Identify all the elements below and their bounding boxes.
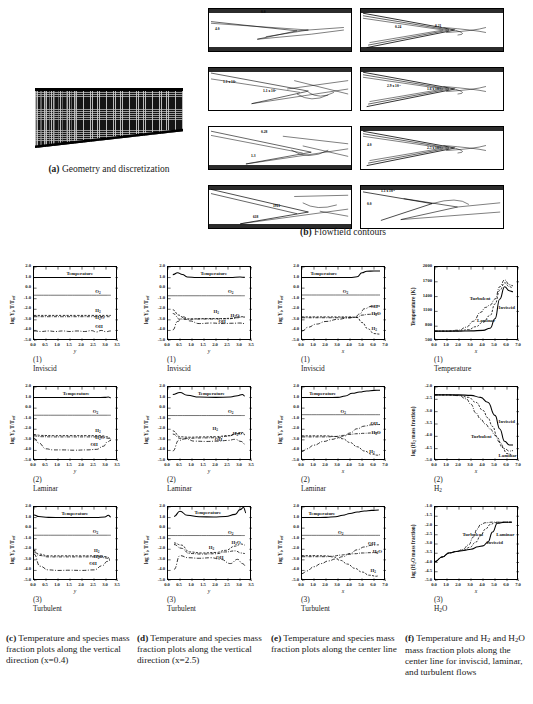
panel-b-caption-text: Flowfield contours [312, 227, 386, 237]
y-tick-label: -2.0 [415, 522, 432, 527]
x-tick-label: 7.0 [510, 462, 526, 467]
x-tick-label: 7.0 [377, 582, 393, 587]
curve-label: Turbulent [470, 296, 491, 301]
y-tick-label: 1100 [415, 307, 432, 312]
contour-value-label: 2.9 x 10-3 [387, 85, 401, 89]
contour-value-label: 618 [253, 216, 258, 220]
series-oh [302, 545, 379, 574]
y-tick-label: -4.0 [282, 446, 299, 451]
panel-a-caption-text: Geometry and discretization [60, 164, 170, 174]
contour-plot-area: 2.9 x 10-31.6 x 10-4(6) H2 [360, 67, 504, 111]
curve-label: Inviscid [499, 419, 515, 424]
plot-axes-box: TurbulentInviscidLaminar [434, 266, 518, 340]
curve-label: H2 [95, 428, 100, 434]
geometry-mesh-image [35, 88, 183, 148]
curve-label: Temperature [66, 271, 93, 276]
y-tick-label: -2.0 [282, 545, 299, 550]
y-tick-label: 0.0 [148, 524, 165, 529]
y-tick-label: -1.5 [415, 512, 432, 517]
curve-label: Temperature [200, 271, 227, 276]
curve-label: Turbulent [471, 434, 492, 439]
y-tick-label: 1.0 [282, 394, 299, 399]
y-tick-label: 1400 [415, 293, 432, 298]
series-h2o [302, 433, 380, 437]
curve-label: Inviscid [487, 540, 503, 545]
y-tick-label: 2.0 [14, 263, 31, 268]
series-laminar [435, 395, 513, 455]
series-oh [174, 556, 246, 570]
y-tick-label: -1.0 [14, 535, 31, 540]
curve-label: O2 [93, 409, 98, 415]
y-tick-label: -3.0 [282, 436, 299, 441]
y-tick-label: -4.0 [415, 559, 432, 564]
y-tick-label: -2.0 [14, 425, 31, 430]
y-axis-label: log (H2O mass fraction) [410, 524, 417, 578]
y-tick-label: 2.0 [282, 263, 299, 268]
y-tick-label: -4.0 [282, 566, 299, 571]
y-tick-label: -2.0 [14, 305, 31, 310]
x-tick-label: 3.5 [109, 582, 125, 587]
x-tick-label: 3.5 [243, 342, 259, 347]
curve-label: H2O [233, 431, 242, 437]
y-tick-label: -3.0 [14, 436, 31, 441]
x-axis-label: x [466, 468, 486, 474]
contour-value-label: 0.0 [261, 11, 266, 15]
contour-value-label: 1.1 x 10-2 [381, 190, 395, 194]
plot-axes-box: TemperatureO2OHH2OH2 [301, 506, 385, 580]
curve-label: H2 [212, 426, 217, 432]
curve-label: H2O [372, 430, 381, 436]
panel-e-caption: (e) Temperature and species mass fractio… [271, 633, 399, 655]
y-tick-label: -5.0 [148, 457, 165, 462]
plot-axes-box: TemperatureO2H2H2OOH [33, 266, 117, 340]
y-tick-label: -3.0 [148, 436, 165, 441]
plot-curves [168, 387, 252, 461]
curve-label: Laminar [496, 532, 514, 537]
panel-a-caption: (a) Geometry and discretization [18, 164, 200, 174]
y-tick-label: -4.0 [14, 566, 31, 571]
y-tick-label: 0.0 [14, 284, 31, 289]
panel-a-caption-label: (a) [48, 164, 59, 174]
y-tick-label: 1700 [415, 278, 432, 283]
y-tick-label: -3.0 [282, 556, 299, 561]
y-axis-label: log Yi, T/Tref [277, 536, 284, 564]
curve-label: O2 [228, 289, 233, 295]
y-tick-label: 2.0 [282, 383, 299, 388]
y-tick-label: 1.0 [148, 514, 165, 519]
y-tick-label: 2.0 [14, 503, 31, 508]
panel-f-caption-text: Temperature and H2 and H2O mass fraction… [405, 633, 525, 677]
y-tick-label: 1.0 [148, 394, 165, 399]
curve-label: OH [216, 555, 223, 560]
curve-label: OH [215, 437, 222, 442]
curve-label: H2O [95, 315, 104, 321]
y-axis-label: log Yi, T/Tref [9, 416, 16, 444]
contour-value-label: 4.0 [367, 144, 372, 148]
x-tick-label: 7.0 [377, 462, 393, 467]
plot-axes-box: TemperatureO2H2H2OOH [167, 266, 251, 340]
series-oh [34, 330, 111, 332]
y-tick-label: -1.0 [148, 535, 165, 540]
panel-e-caption-label: (e) [271, 633, 281, 643]
mesh-inlet-clustering [35, 88, 77, 148]
curve-label: H2O [94, 554, 103, 560]
y-tick-label: 1.0 [14, 514, 31, 519]
y-tick-label: 0.0 [148, 284, 165, 289]
curve-label: H2O [230, 313, 239, 319]
series-h2o [302, 553, 379, 557]
y-tick-label: 800 [415, 322, 432, 327]
plot-curves [435, 387, 519, 461]
plot-curves [34, 387, 118, 461]
contour-panel-machnumber: 0.04.0(1) Mach number [208, 8, 350, 50]
y-axis-label: Temperature (K) [410, 287, 416, 325]
y-tick-label: -1.0 [148, 415, 165, 420]
y-tick-label: 0.0 [14, 404, 31, 409]
plot-curves [34, 507, 118, 581]
contour-value-label: 0.0 [367, 203, 372, 207]
mesh-top-wall [35, 88, 183, 91]
curve-label: O2 [340, 409, 345, 415]
y-axis-label: log Yi, T/Tref [143, 536, 150, 564]
y-tick-label: -2.0 [148, 305, 165, 310]
curve-label: Temperature [63, 391, 90, 396]
curve-label: Temperature [309, 391, 336, 396]
contour-value-label: 1.6 x 10-4 [427, 88, 441, 92]
y-tick-label: -3.0 [148, 316, 165, 321]
